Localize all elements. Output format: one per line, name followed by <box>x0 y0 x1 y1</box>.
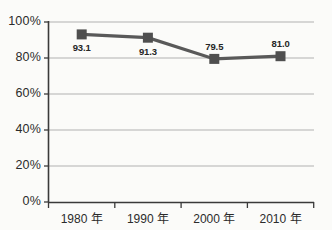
data-point-label-1980: 93.1 <box>73 42 91 53</box>
series-line <box>82 34 281 59</box>
data-point-marker <box>209 54 219 64</box>
y-axis-tick-label-40: 40% <box>0 122 41 136</box>
y-axis-tick-label-20: 20% <box>0 158 41 172</box>
line-chart: 100% 80% 60% 40% 20% 0% 1980 年 1990 年 20… <box>0 0 332 230</box>
y-axis-tick-label-80: 80% <box>0 50 41 64</box>
data-point-marker <box>276 51 286 61</box>
y-axis-tick-label-100: 100% <box>0 14 41 28</box>
y-axis-tick-label-0: 0% <box>0 194 41 208</box>
data-point-label-1990: 91.3 <box>139 46 157 57</box>
data-point-marker <box>77 29 87 39</box>
data-point-label-2010: 81.0 <box>272 38 290 49</box>
x-axis-tick-label-1980: 1980 年 <box>49 209 115 226</box>
data-point-marker <box>143 33 153 43</box>
x-axis-tick-label-1990: 1990 年 <box>115 209 181 226</box>
x-axis-tick-label-2000: 2000 年 <box>181 209 247 226</box>
x-axis-tick-label-2010: 2010 年 <box>247 209 313 226</box>
y-axis-tick-label-60: 60% <box>0 86 41 100</box>
chart-plot-area <box>0 0 332 230</box>
y-axis-ticks <box>44 22 48 202</box>
data-point-label-2000: 79.5 <box>205 41 223 52</box>
